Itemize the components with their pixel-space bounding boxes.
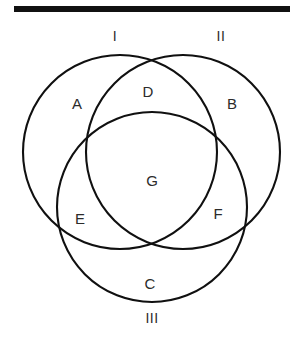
region-label-a: A: [72, 96, 82, 111]
set-label-ii: II: [217, 29, 226, 43]
circle-ii-outline: [86, 55, 280, 249]
venn-diagram-figure: I II III A D B G E F C: [0, 0, 303, 350]
set-label-i: I: [113, 29, 117, 43]
region-label-d: D: [143, 84, 154, 99]
region-label-f: F: [213, 206, 222, 221]
region-label-b: B: [227, 96, 237, 111]
region-label-c: C: [145, 276, 156, 291]
region-label-e: E: [75, 211, 85, 226]
circle-i-outline: [23, 55, 217, 249]
set-label-iii: III: [145, 311, 158, 325]
region-label-g: G: [146, 173, 158, 188]
